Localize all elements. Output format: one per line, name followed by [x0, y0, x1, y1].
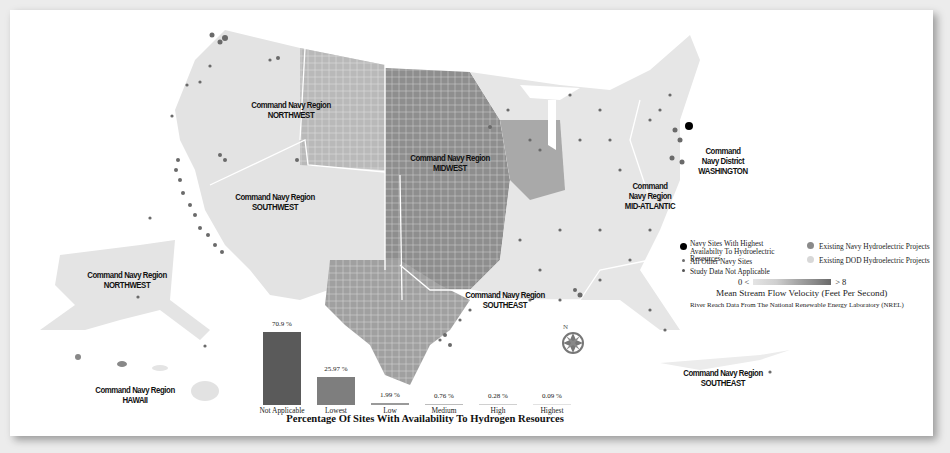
scale-min: 0 < [738, 277, 749, 287]
region-label-alaska: Command Navy RegionNORTHWEST [82, 270, 172, 290]
legend-navy-hydro: Existing Navy Hydroelectric Projects [807, 242, 930, 251]
region-line2: MIDWEST [405, 163, 495, 173]
bar-not-applicable: 70.9 % Not Applicable [259, 320, 305, 405]
bar-value: 1.99 % [380, 391, 400, 399]
legend-label: Existing DOD Hydroelectric Projects [819, 256, 930, 265]
bar-highest: 0.09 % Highest [529, 392, 575, 405]
region-line2: NORTHWEST [82, 280, 172, 290]
chart-title: Percentage Of Sites With Availability To… [255, 413, 595, 424]
bar [317, 377, 355, 405]
gray-dot-icon [682, 259, 685, 262]
legend-label: All Other Navy Sites [690, 257, 752, 266]
region-line3: MID-ATLANTIC [621, 201, 678, 211]
scale-max: > 8 [835, 277, 846, 287]
region-line2: SOUTHEAST [678, 378, 768, 388]
legend-dod-hydro: Existing DOD Hydroelectric Projects [807, 256, 930, 265]
region-label-hawaii: Command Navy RegionHAWAII [90, 385, 180, 405]
alaska-shape [40, 240, 210, 340]
velocity-scale: 0 < > 8 [738, 277, 846, 287]
legend-label: Existing Navy Hydroelectric Projects [819, 242, 930, 251]
hawaii-island [191, 381, 219, 401]
region-label-washington: CommandNavy DistrictWASHINGTON [694, 146, 751, 176]
scale-title: Mean Stream Flow Velocity (Feet Per Seco… [716, 288, 887, 298]
region-line3: WASHINGTON [694, 166, 751, 176]
bar-value: 0.09 % [542, 392, 562, 400]
hydrogen-bar-chart: 70.9 % Not Applicable 25.97 % Lowest 1.9… [255, 300, 595, 435]
region-line2: SOUTHWEST [230, 202, 320, 212]
bar-lowest: 25.97 % Lowest [313, 365, 359, 405]
bar-value: 25.97 % [324, 365, 347, 373]
region-line2: NORTHWEST [246, 110, 336, 120]
highest-site-marker [685, 122, 693, 130]
black-dot-icon [680, 243, 687, 250]
legend-not-applicable: Study Data Not Applicable [682, 267, 770, 276]
region-label-southwest: Command Navy RegionSOUTHWEST [230, 192, 320, 212]
region-label-northwest: Command Navy RegionNORTHWEST [246, 100, 336, 120]
region-label-caribbean: Command Navy RegionSOUTHEAST [678, 368, 768, 388]
legend-other-sites: All Other Navy Sites [682, 257, 752, 266]
legend-label: Study Data Not Applicable [690, 267, 770, 276]
bar-medium: 0.76 % Medium [421, 392, 467, 405]
bar [371, 403, 409, 405]
bar-value: 0.76 % [434, 392, 454, 400]
dod-hydro-dot-icon [807, 256, 814, 263]
bar-value: 70.9 % [272, 320, 292, 328]
region-label-midwest: Command Navy RegionMIDWEST [405, 153, 495, 173]
bar-high: 0.28 % High [475, 392, 521, 405]
bar [263, 332, 301, 405]
region-label-mid-atlantic: CommandNavy RegionMID-ATLANTIC [621, 181, 678, 211]
data-source: River Reach Data From The National Renew… [690, 301, 904, 308]
bar [479, 404, 517, 405]
navy-hydro-dot-icon [807, 242, 814, 249]
bar-low: 1.99 % Low [367, 391, 413, 405]
bar [425, 404, 463, 405]
bar [533, 404, 571, 405]
dark-dot-icon [682, 269, 685, 272]
bar-value: 0.28 % [488, 392, 508, 400]
scale-gradient [753, 279, 831, 285]
region-line2: HAWAII [90, 395, 180, 405]
